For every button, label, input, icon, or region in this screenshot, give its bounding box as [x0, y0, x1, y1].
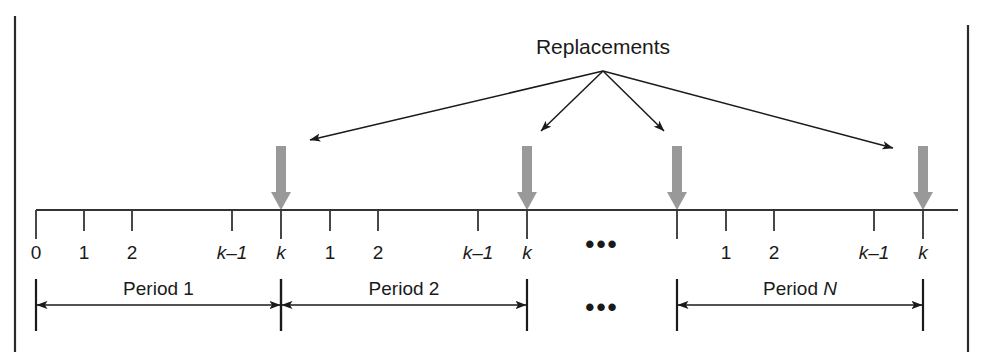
period-label: Period N [763, 278, 837, 299]
axis-tick-label: 2 [769, 242, 780, 263]
axis-tick-label: 1 [721, 242, 732, 263]
callout-arrow [310, 71, 603, 140]
period-ellipsis: ••• [585, 292, 618, 322]
period-label: Period 1 [123, 278, 194, 299]
replacement-marker-head [667, 192, 687, 210]
replacement-marker-group [271, 146, 933, 210]
axis-tick-group: 012k–1k12k–1k12k–1k [31, 210, 930, 263]
callout-arrows [310, 71, 893, 148]
period-bar-group: Period 1Period 2Period N [36, 278, 923, 331]
axis-ellipsis: ••• [585, 229, 618, 259]
axis-tick-label: 2 [127, 242, 138, 263]
period-label-index: N [823, 278, 837, 299]
axis-tick-label: k [918, 242, 929, 263]
replacement-marker-head [271, 192, 291, 210]
axis-tick-label: 2 [373, 242, 384, 263]
figure-frame [15, 16, 968, 352]
callout-title: Replacements [536, 35, 670, 58]
replacement-marker-head [517, 192, 537, 210]
replacement-marker-shaft [672, 146, 682, 193]
axis-tick-label: 1 [79, 242, 90, 263]
callout-arrow [603, 71, 664, 131]
axis-tick-label: k [276, 242, 287, 263]
replacement-marker-shaft [522, 146, 532, 193]
axis-tick-label: k [522, 242, 533, 263]
figure-container: Replacements 012k–1k12k–1k12k–1k ••• Per… [0, 0, 984, 359]
replacement-marker-shaft [276, 146, 286, 193]
axis-tick-label: 1 [325, 242, 336, 263]
replacement-marker-head [913, 192, 933, 210]
axis-tick-label: k–1 [217, 242, 248, 263]
timeline-diagram: Replacements 012k–1k12k–1k12k–1k ••• Per… [0, 0, 984, 359]
replacement-marker-shaft [918, 146, 928, 193]
callout-arrow [541, 71, 603, 131]
axis-tick-label: k–1 [859, 242, 890, 263]
period-label: Period 2 [369, 278, 440, 299]
callout-arrow [603, 71, 893, 148]
axis-tick-label: k–1 [463, 242, 494, 263]
axis-tick-label: 0 [31, 242, 42, 263]
